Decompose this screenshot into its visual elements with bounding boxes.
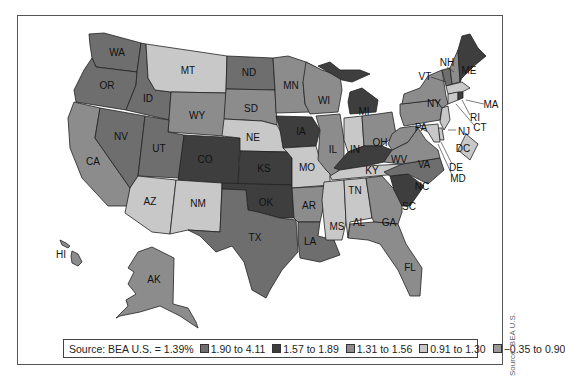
label-nm: NM (190, 198, 206, 209)
label-mi: MI (358, 106, 369, 117)
legend-swatch-3 (346, 344, 355, 353)
label-az: AZ (144, 196, 157, 207)
state-ak[interactable] (116, 247, 198, 328)
legend-label-4: 0.91 to 1.30 (430, 343, 485, 355)
label-ak: AK (147, 274, 161, 285)
label-nh: NH (440, 57, 454, 68)
label-ky: KY (365, 165, 379, 176)
label-nd: ND (242, 67, 256, 78)
label-mo: MO (299, 162, 315, 173)
label-or: OR (100, 80, 115, 91)
label-mn: MN (283, 80, 299, 91)
legend-swatch-1 (200, 344, 209, 353)
label-wy: WY (189, 110, 205, 121)
label-wi: WI (318, 95, 330, 106)
legend-label-2: 1.57 to 1.89 (283, 343, 338, 355)
label-ca: CA (86, 156, 100, 167)
label-tx: TX (249, 232, 262, 243)
label-sd: SD (244, 103, 258, 114)
side-credit-text: Source: BEA U.S. (508, 313, 517, 376)
legend-label-1: 1.90 to 4.11 (211, 343, 266, 355)
legend-item-5: −0.35 to 0.90 (493, 343, 565, 355)
label-tn: TN (348, 185, 361, 196)
label-ks: KS (257, 163, 271, 174)
label-ne: NE (246, 132, 260, 143)
label-nc: NC (415, 181, 429, 192)
state-fl[interactable] (348, 222, 422, 296)
label-pa: PA (415, 122, 428, 133)
legend-source: Source: BEA U.S. = 1.39% (69, 343, 194, 355)
label-co: CO (198, 154, 213, 165)
label-dc: DC (456, 143, 470, 154)
label-ms: MS (330, 221, 345, 232)
state-ct[interactable] (448, 92, 458, 104)
label-de: DE (449, 162, 463, 173)
label-in: IN (350, 144, 360, 155)
label-wv: WV (391, 154, 407, 165)
legend-item-3: 1.31 to 1.56 (346, 343, 412, 355)
label-sc: SC (402, 201, 416, 212)
label-ny: NY (427, 98, 441, 109)
state-hi-islands[interactable] (60, 240, 70, 248)
label-id: ID (143, 93, 153, 104)
map-legend: Source: BEA U.S. = 1.39% 1.90 to 4.11 1.… (63, 339, 478, 358)
label-wa: WA (109, 47, 125, 58)
label-ok: OK (259, 197, 274, 208)
label-hi: HI (56, 249, 66, 260)
legend-item-4: 0.91 to 1.30 (419, 343, 485, 355)
label-ct: CT (473, 122, 486, 133)
label-la: LA (304, 236, 317, 247)
label-ia: IA (296, 126, 306, 137)
label-mt: MT (181, 65, 195, 76)
label-ga: GA (382, 217, 397, 228)
label-fl: FL (404, 262, 416, 273)
label-ut: UT (152, 143, 165, 154)
legend-item-2: 1.57 to 1.89 (272, 343, 338, 355)
state-ri[interactable] (458, 92, 463, 100)
state-nj[interactable] (440, 106, 450, 130)
state-hi[interactable] (71, 251, 82, 266)
label-me: ME (462, 65, 477, 76)
label-al: AL (353, 217, 366, 228)
label-ar: AR (302, 200, 316, 211)
label-va: VA (418, 159, 431, 170)
legend-item-1: 1.90 to 4.11 (200, 343, 266, 355)
legend-label-3: 1.31 to 1.56 (357, 343, 412, 355)
label-il: IL (329, 144, 338, 155)
label-oh: OH (373, 137, 388, 148)
label-ma: MA (484, 99, 499, 110)
label-nj: NJ (458, 126, 470, 137)
legend-swatch-4 (419, 344, 428, 353)
side-credit: Source: BEA U.S. (508, 318, 522, 378)
label-md: MD (450, 173, 466, 184)
legend-swatch-2 (272, 344, 281, 353)
legend-swatch-5 (493, 344, 502, 353)
label-nv: NV (114, 131, 128, 142)
label-vt: VT (419, 71, 432, 82)
